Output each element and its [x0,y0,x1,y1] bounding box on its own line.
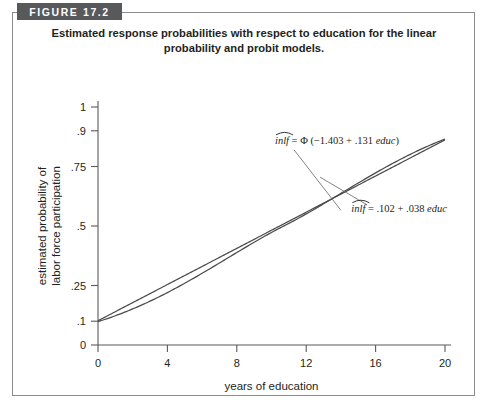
equation-regressor: educ [427,203,447,214]
y-tick-label: .75 [71,161,86,173]
plot-area: 0.1.25.5.75.91 048121620 inlf = Φ (−1.40… [12,12,475,396]
x-tick-label: 4 [164,357,170,369]
y-axis-title-line-2: labor force participation [50,166,62,286]
equation-body: = .102 + .038 [365,203,427,214]
y-tick-label: 1 [80,101,86,113]
y-tick-label: 0 [80,339,86,351]
x-tick-label: 0 [95,357,101,369]
figure-number-badge: FIGURE 17.2 [17,3,122,20]
curves-group [98,139,445,322]
leader-line-probit [294,150,341,210]
y-axis-title-line-1: estimated probability of [36,166,48,285]
y-tick-label: .9 [77,125,86,137]
curve-linear [98,140,445,321]
x-tick-label: 20 [439,357,451,369]
equation-annotation-probit: inlf = Φ (−1.403 + .131 educ) [275,132,400,147]
x-axis-tick-labels: 048121620 [95,357,451,369]
figure-root: FIGURE 17.2 Estimated response probabili… [0,0,494,411]
y-tick-label: .25 [71,280,86,292]
equation-body: = Φ (−1.403 + .131 [289,135,376,147]
x-axis-title: years of education [225,380,319,392]
equation-regressor: educ [376,135,396,146]
x-tick-label: 16 [369,357,381,369]
y-tick-label: .5 [77,220,86,232]
equation-suffix: ) [396,135,400,147]
x-tick-label: 12 [300,357,312,369]
figure-number-label: FIGURE 17.2 [29,6,110,18]
y-tick-label: .1 [77,315,86,327]
chart-canvas: 0.1.25.5.75.91 048121620 inlf = Φ (−1.40… [12,12,475,396]
equation-annotation-linear: inlf = .102 + .038 educ [351,200,447,214]
y-axis-title: estimated probability oflabor force part… [36,166,62,286]
equation-text-probit: inlf = Φ (−1.403 + .131 educ) [275,135,400,147]
equation-text-linear: inlf = .102 + .038 educ [351,203,447,214]
y-axis-tick-labels: 0.1.25.5.75.91 [71,101,86,351]
x-tick-label: 8 [234,357,240,369]
